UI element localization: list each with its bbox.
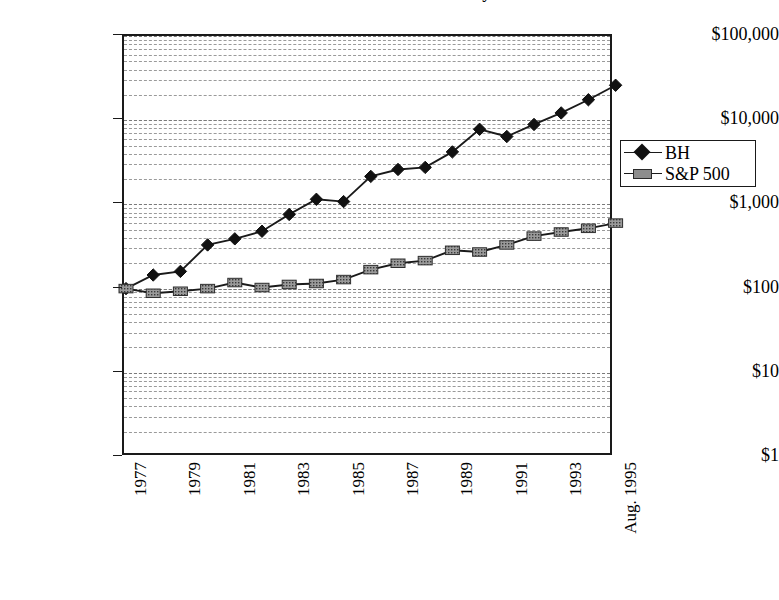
y-axis-tick bbox=[113, 34, 122, 35]
data-point bbox=[309, 279, 323, 288]
data-point bbox=[229, 233, 241, 245]
data-point bbox=[501, 130, 513, 142]
legend-item-sp500: S&P 500 bbox=[621, 163, 755, 185]
data-point bbox=[283, 208, 295, 220]
y-axis-label: $100 bbox=[675, 278, 779, 296]
data-point bbox=[147, 269, 159, 281]
data-point bbox=[527, 232, 541, 241]
data-point bbox=[419, 161, 431, 173]
chart-canvas: Growth of $100 — Berkshire Hathaway vs. … bbox=[0, 0, 779, 600]
y-axis-tick bbox=[113, 118, 122, 119]
data-point bbox=[282, 280, 296, 289]
x-axis-label: 1983 bbox=[295, 428, 312, 462]
data-point bbox=[256, 225, 268, 237]
data-point bbox=[255, 283, 269, 292]
x-axis-label: 1981 bbox=[241, 428, 258, 462]
y-axis-tick bbox=[113, 287, 122, 288]
legend-label-sp500: S&P 500 bbox=[665, 165, 730, 183]
y-axis-tick bbox=[113, 455, 122, 456]
data-point bbox=[418, 256, 432, 265]
x-axis-label: Aug. 1995 bbox=[622, 390, 639, 462]
data-point bbox=[173, 287, 187, 296]
series-layer bbox=[124, 36, 614, 457]
data-point bbox=[528, 118, 540, 130]
y-axis-label: $100,000 bbox=[675, 25, 779, 43]
y-axis-label: $10,000 bbox=[675, 109, 779, 127]
data-point bbox=[581, 224, 595, 233]
data-point bbox=[337, 275, 351, 284]
square-marker-icon bbox=[621, 164, 665, 184]
data-point bbox=[473, 248, 487, 257]
x-axis-label: 1989 bbox=[458, 428, 475, 462]
y-axis-tick bbox=[113, 202, 122, 203]
data-point bbox=[555, 107, 567, 119]
data-point bbox=[310, 193, 322, 205]
data-point bbox=[500, 241, 514, 250]
data-point bbox=[392, 163, 404, 175]
x-axis-label: 1987 bbox=[404, 428, 421, 462]
legend-item-bh: BH bbox=[621, 142, 755, 164]
data-point bbox=[554, 228, 568, 237]
y-axis-label: $1 bbox=[675, 446, 779, 464]
plot-area bbox=[122, 34, 612, 455]
legend-label-bh: BH bbox=[665, 144, 690, 162]
y-axis-tick bbox=[113, 371, 122, 372]
data-point bbox=[609, 79, 621, 91]
data-point bbox=[445, 246, 459, 255]
data-point bbox=[391, 259, 405, 268]
chart-title: Growth of $100 — Berkshire Hathaway vs. … bbox=[0, 0, 779, 3]
data-point bbox=[201, 284, 215, 293]
data-point bbox=[364, 265, 378, 274]
x-axis-label: 1993 bbox=[567, 428, 584, 462]
y-axis-label: $10 bbox=[675, 362, 779, 380]
data-point bbox=[609, 219, 623, 228]
y-axis-label: $1,000 bbox=[675, 193, 779, 211]
x-axis-label: 1991 bbox=[513, 428, 530, 462]
series-bh bbox=[120, 79, 622, 295]
diamond-marker-icon bbox=[621, 143, 665, 163]
x-axis-label: 1977 bbox=[132, 428, 149, 462]
data-point bbox=[582, 94, 594, 106]
x-axis-label: 1979 bbox=[186, 428, 203, 462]
data-point bbox=[146, 289, 160, 298]
legend: BH S&P 500 bbox=[620, 140, 756, 187]
data-point bbox=[228, 278, 242, 287]
x-axis-label: 1985 bbox=[350, 428, 367, 462]
